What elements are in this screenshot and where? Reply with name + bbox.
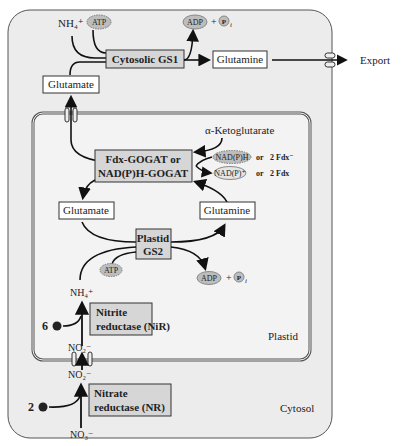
svg-text:Glutamine: Glutamine	[217, 53, 264, 65]
svg-text:ADP: ADP	[187, 18, 204, 27]
svg-text:Fdx-GOGAT or: Fdx-GOGAT or	[105, 153, 180, 165]
nitrogen-assimilation-diagram: NH₄⁺ ATP ADP + P i Cytosolic GS1 Glutami…	[0, 0, 401, 446]
svg-text:Glutamate: Glutamate	[48, 78, 94, 90]
svg-text:or: or	[256, 169, 264, 178]
svg-text:Export: Export	[360, 54, 390, 66]
svg-text:i: i	[230, 21, 232, 29]
svg-text:NAD(P)⁺: NAD(P)⁺	[214, 169, 245, 178]
nitrite-transporter-icon	[72, 352, 76, 366]
glutamate-transporter-icon	[65, 108, 69, 122]
svg-text:NAD(P)H-GOGAT: NAD(P)H-GOGAT	[98, 167, 189, 180]
svg-text:P: P	[222, 18, 227, 26]
svg-text:6: 6	[42, 319, 48, 333]
svg-text:Nitrate: Nitrate	[94, 387, 128, 399]
svg-text:Glutamate: Glutamate	[63, 204, 109, 216]
electron-icon	[53, 322, 62, 331]
svg-text:NO₂⁻: NO₂⁻	[68, 342, 91, 353]
svg-text:or: or	[256, 153, 264, 162]
cytosol-label: Cytosol	[280, 402, 314, 414]
svg-text:GS2: GS2	[143, 245, 164, 257]
plastid-label: Plastid	[268, 330, 298, 342]
svg-text:P: P	[237, 274, 242, 282]
export-transporter-icon	[325, 53, 335, 58]
svg-text:Plastid: Plastid	[137, 232, 169, 244]
svg-text:NAD(P)H: NAD(P)H	[216, 153, 249, 162]
svg-text:ATP: ATP	[104, 266, 119, 275]
svg-text:2: 2	[28, 400, 34, 414]
svg-text:reductase (NR): reductase (NR)	[94, 401, 165, 414]
svg-text:reductase (NiR): reductase (NiR)	[96, 320, 170, 333]
svg-text:NH₄⁺: NH₄⁺	[70, 287, 93, 298]
svg-text:Cytosolic GS1: Cytosolic GS1	[112, 53, 178, 65]
svg-text:ADP: ADP	[201, 274, 218, 283]
svg-text:+: +	[226, 272, 232, 283]
svg-text:2 Fdx: 2 Fdx	[270, 169, 289, 178]
svg-text:NO₃⁻: NO₃⁻	[70, 429, 93, 440]
svg-text:+: +	[211, 16, 217, 27]
svg-text:2 Fdx⁻: 2 Fdx⁻	[270, 153, 294, 162]
svg-text:NO₂⁻: NO₂⁻	[68, 369, 91, 380]
svg-text:Glutamine: Glutamine	[204, 204, 251, 216]
svg-text:ATP: ATP	[92, 18, 107, 27]
nh4-top-label: NH₄⁺	[58, 17, 84, 29]
svg-text:Nitrite: Nitrite	[96, 306, 127, 318]
electron-icon	[39, 403, 48, 412]
svg-text:α-Ketoglutarate: α-Ketoglutarate	[205, 124, 274, 136]
svg-text:i: i	[245, 277, 247, 285]
